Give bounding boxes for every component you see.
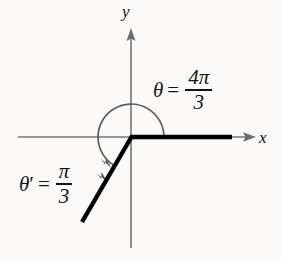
theta-denominator: 3 bbox=[190, 91, 207, 113]
theta-numerator: 4π bbox=[185, 67, 212, 89]
y-axis-label: y bbox=[122, 2, 130, 22]
theta-equation: θ = 4π 3 bbox=[153, 67, 212, 113]
theta-equals-sign: = bbox=[167, 78, 179, 103]
reference-numerator: π bbox=[56, 161, 73, 183]
reference-angle-equation: θ ′ = π 3 bbox=[19, 161, 72, 207]
terminal-side-ray bbox=[82, 136, 132, 222]
theta-prime-symbol: θ bbox=[19, 172, 29, 197]
x-axis-label: x bbox=[259, 128, 267, 148]
angle-diagram bbox=[0, 0, 281, 260]
reference-fraction: π 3 bbox=[56, 161, 73, 207]
theta-symbol: θ bbox=[153, 78, 163, 103]
reference-denominator: 3 bbox=[56, 185, 73, 207]
theta-fraction: 4π 3 bbox=[185, 67, 212, 113]
reference-equals-sign: = bbox=[38, 172, 50, 197]
prime-mark: ′ bbox=[29, 172, 34, 197]
